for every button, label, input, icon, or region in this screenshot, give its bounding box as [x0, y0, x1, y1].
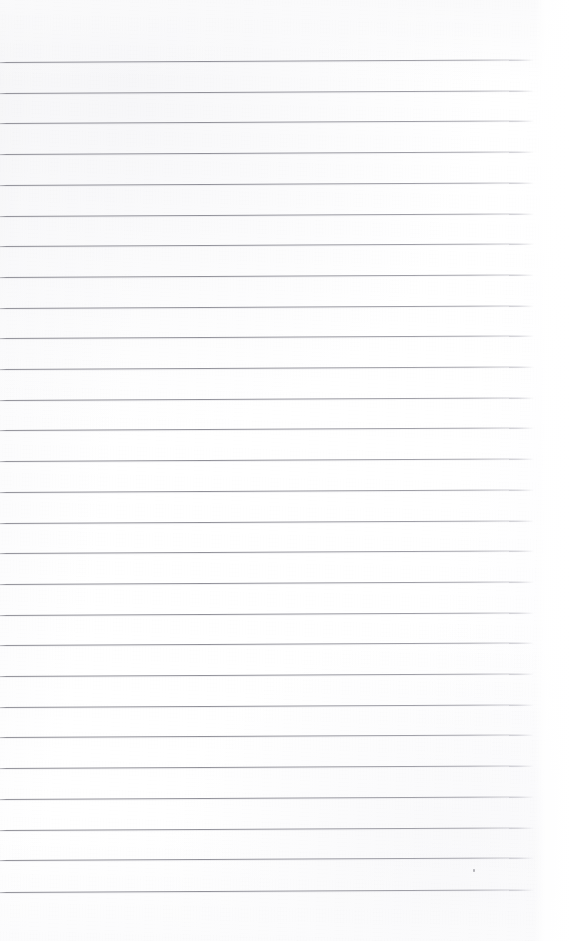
notebook-page: An empty sheet of lined paper with no ha… — [0, 0, 572, 941]
paper-background — [0, 0, 572, 941]
